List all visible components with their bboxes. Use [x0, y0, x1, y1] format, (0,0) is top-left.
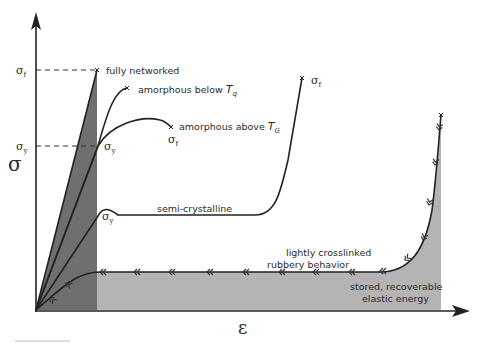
sigma-y-axis-label: σy — [16, 140, 28, 155]
sigma-y-label-semi-crystalline: σy — [102, 210, 114, 225]
sigma-f-label-amorphous-above: σf — [168, 133, 180, 148]
stress-strain-diagram: σ ε σf σy σy σf σf σy fully networked am… — [0, 0, 486, 343]
label-lightly-crosslinked-line1: lightly crosslinked — [286, 247, 371, 258]
label-fully-networked: fully networked — [106, 65, 179, 76]
label-stored-energy-line1: stored, recoverable — [350, 281, 443, 292]
sigma-f-axis-label: σf — [16, 64, 28, 79]
label-stored-energy-line2: elastic energy — [362, 293, 429, 304]
label-lightly-crosslinked-line2: rubbery behavior — [267, 259, 349, 270]
y-axis-label: σ — [8, 152, 22, 176]
sigma-y-label-amorphous: σy — [104, 140, 116, 155]
x-axis-label: ε — [238, 317, 247, 338]
sigma-f-label-semi-crystalline: σf — [311, 74, 323, 89]
label-amorphous-below: amorphous below Tq — [138, 83, 238, 98]
label-semi-crystalline: semi-crystalline — [157, 203, 232, 214]
label-amorphous-above: amorphous above TG — [179, 120, 281, 135]
